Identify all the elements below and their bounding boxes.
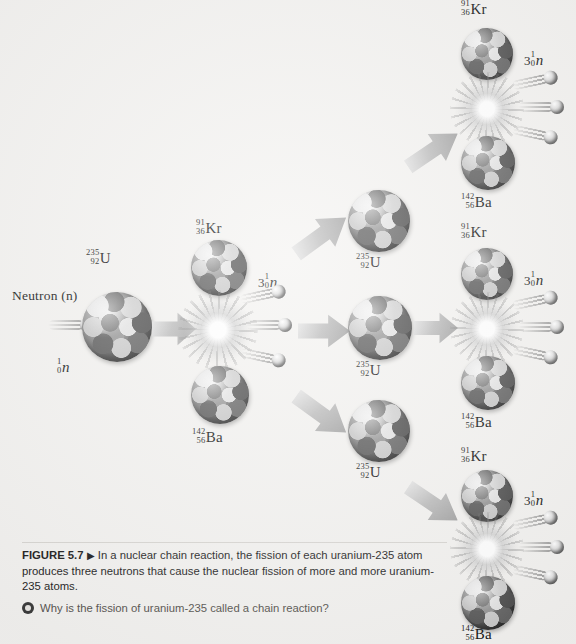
- uranium-label-gen1: 23592U: [86, 248, 111, 267]
- figure-question-row: Why is the fission of uranium-235 called…: [22, 601, 447, 615]
- krypton-label-gen3-top: 9136Kr: [461, 0, 487, 18]
- figure-number: FIGURE 5.7: [22, 549, 84, 561]
- emitted-neutron-gen3-middle-2: [518, 320, 564, 334]
- uranium-nucleus-gen2-bottom: [348, 400, 410, 462]
- caption-body: In a nuclear chain reaction, the fission…: [22, 549, 434, 592]
- caption-text: FIGURE 5.7 ▶ In a nuclear chain reaction…: [22, 548, 447, 595]
- uranium-nucleus-gen2-top: [348, 190, 410, 252]
- emitted-neutron-gen3-top-3: [511, 122, 559, 145]
- branch-arrow-down: [285, 381, 356, 447]
- barium-nucleus-gen3-bottom: [461, 576, 515, 630]
- incident-neutron-label: 10n: [57, 357, 70, 376]
- krypton-nucleus-gen1: [191, 240, 247, 296]
- emitted-neutron-gen3-bottom-3: [511, 562, 559, 585]
- uranium-nucleus-gen1: [82, 292, 152, 362]
- uranium-label-gen2-middle: 23592U: [356, 360, 381, 379]
- emitted-neutron-gen1-2: [246, 318, 292, 332]
- branch-arrow-middle: [298, 314, 350, 348]
- figure-canvas: Neutron (n) 10n 23592U 9136Kr 14256Ba 31…: [0, 0, 576, 644]
- caption-triangle-icon: ▶: [87, 550, 95, 561]
- emitted-neutron-gen3-middle-1: [511, 289, 559, 312]
- barium-label-gen3-middle: 14256Ba: [461, 412, 492, 431]
- uranium-label-gen2-top: 23592U: [356, 252, 381, 271]
- three-neutrons-label-gen3-top: 310n: [524, 50, 543, 69]
- emitted-neutron-gen3-middle-3: [511, 342, 559, 365]
- caption-divider: [22, 542, 447, 543]
- emitted-neutron-gen1-1: [239, 283, 287, 306]
- barium-label-gen3-top: 14256Ba: [461, 192, 492, 211]
- neutron-atomic-number: 0: [57, 366, 61, 375]
- emitted-neutron-gen3-top-1: [511, 69, 559, 92]
- barium-nucleus-gen1: [191, 366, 249, 424]
- barium-label-gen1: 14256Ba: [192, 427, 223, 446]
- uranium-nucleus-gen2-middle: [348, 296, 412, 360]
- neutron-word-label: Neutron (n): [12, 288, 78, 304]
- emitted-neutron-gen1-3: [239, 345, 287, 368]
- neutron-trail: [48, 320, 84, 330]
- krypton-label-gen1: 9136Kr: [196, 218, 222, 237]
- bullseye-icon: [22, 602, 34, 614]
- krypton-label-gen3-bottom: 9136Kr: [461, 446, 487, 465]
- emitted-neutron-gen3-bottom-1: [511, 509, 559, 532]
- emitted-neutron-gen3-top-2: [518, 100, 564, 114]
- uranium-label-gen2-bottom: 23592U: [356, 462, 381, 481]
- branch-arrow-up: [285, 203, 356, 269]
- three-neutrons-label-gen3-bottom: 310n: [524, 490, 543, 509]
- neutron-symbol: n: [62, 359, 70, 375]
- barium-nucleus-gen3-middle: [461, 356, 515, 410]
- three-neutrons-label-gen3-middle: 310n: [524, 270, 543, 289]
- figure-caption: FIGURE 5.7 ▶ In a nuclear chain reaction…: [22, 548, 447, 615]
- barium-nucleus-gen3-top: [461, 136, 515, 190]
- figure-question-text: Why is the fission of uranium-235 called…: [40, 601, 329, 615]
- emitted-neutron-gen3-bottom-2: [518, 540, 564, 554]
- krypton-label-gen3-middle: 9136Kr: [461, 222, 487, 241]
- barium-label-gen3-bottom: 14256Ba: [461, 624, 492, 643]
